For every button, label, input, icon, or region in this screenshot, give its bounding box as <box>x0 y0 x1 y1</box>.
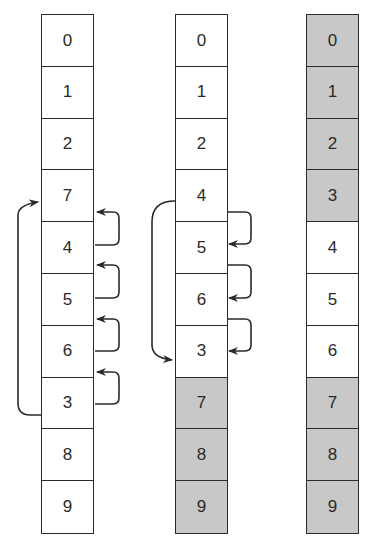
arrow-left-long <box>18 202 41 415</box>
arrow-right-hook <box>227 212 251 244</box>
arrow-right-hook <box>95 372 119 404</box>
arrow-right-hook <box>95 265 119 298</box>
arrow-right-hook <box>95 319 119 351</box>
arrow-left-long <box>152 201 175 360</box>
arrow-right-hook <box>227 319 251 351</box>
arrow-right-hook <box>227 265 251 298</box>
arrow-right-hook <box>95 212 119 245</box>
arrows-layer <box>0 0 368 558</box>
